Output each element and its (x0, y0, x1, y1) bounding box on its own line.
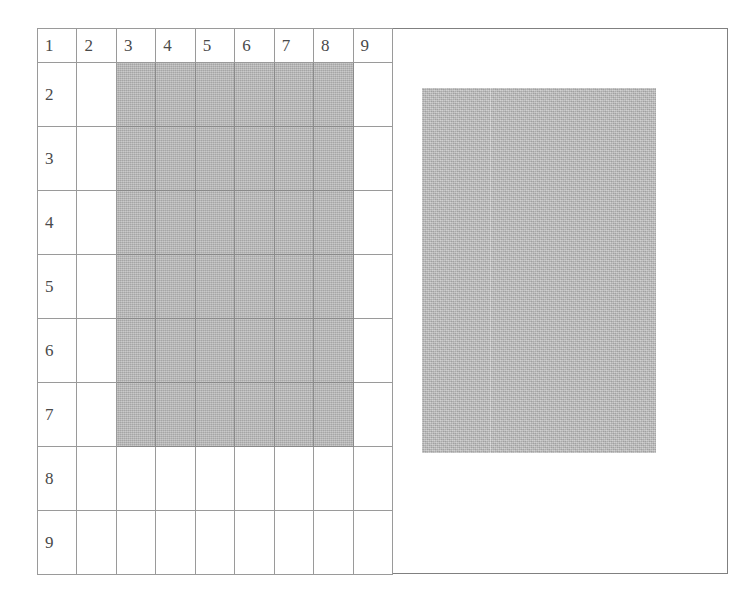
grid-cell (77, 511, 116, 575)
grid-cell-shaded (156, 255, 195, 319)
grid-cell-shaded (314, 127, 353, 191)
row-header-label: 3 (38, 150, 76, 167)
grid-cell (77, 127, 116, 191)
grid-cell (116, 511, 155, 575)
grid-cell-shaded (156, 63, 195, 127)
column-header-label: 2 (77, 37, 115, 54)
grid-cell (274, 511, 313, 575)
grid-cell (116, 447, 155, 511)
grid-row: 8 (38, 447, 393, 511)
grid-cell: 5 (38, 255, 77, 319)
grid-cell-shaded (274, 127, 313, 191)
row-header-label: 7 (38, 406, 76, 423)
grid-cell: 5 (195, 29, 234, 63)
grid-cell-shaded (314, 383, 353, 447)
grid-cell-shaded (314, 191, 353, 255)
grid-cell-shaded (195, 127, 234, 191)
column-header-label: 6 (235, 37, 273, 54)
grid-cell (353, 511, 393, 575)
grid-cell (156, 447, 195, 511)
grid-cell-shaded (274, 383, 313, 447)
grid-row: 7 (38, 383, 393, 447)
grid-cell: 3 (116, 29, 155, 63)
grid-cell (353, 383, 393, 447)
grid-cell (195, 511, 234, 575)
grid-cell-shaded (195, 191, 234, 255)
grid-cell (353, 127, 393, 191)
column-header-label: 1 (38, 37, 76, 54)
column-header-label: 8 (314, 37, 352, 54)
gray-block-seam-line (490, 88, 491, 453)
grid-cell-shaded (314, 319, 353, 383)
grid-body: 12345678923456789 (38, 29, 393, 575)
column-header-label: 7 (275, 37, 313, 54)
grid-cell-shaded (274, 191, 313, 255)
row-header-label: 9 (38, 534, 76, 551)
grid-cell-shaded (116, 127, 155, 191)
grid-cell-shaded (314, 255, 353, 319)
grid-cell-shaded (235, 191, 274, 255)
grid-cell-shaded (156, 127, 195, 191)
grid-cell (235, 511, 274, 575)
grid-row: 4 (38, 191, 393, 255)
grid-cell-shaded (156, 383, 195, 447)
grid-cell-shaded (195, 319, 234, 383)
grid-cell: 1 (38, 29, 77, 63)
grid-cell-shaded (195, 383, 234, 447)
row-header-label: 2 (38, 86, 76, 103)
grid-cell-shaded (235, 383, 274, 447)
grid-cell-shaded (235, 255, 274, 319)
column-header-label: 9 (354, 37, 393, 54)
numbered-grid: 12345678923456789 (37, 28, 393, 575)
grid-cell: 6 (38, 319, 77, 383)
grid-row: 9 (38, 511, 393, 575)
grid-cell (314, 511, 353, 575)
grid-row: 2 (38, 63, 393, 127)
grid-cell: 7 (274, 29, 313, 63)
grid-cell-shaded (116, 255, 155, 319)
grid-cell-shaded (156, 319, 195, 383)
grid-cell: 8 (38, 447, 77, 511)
grid-cell-shaded (116, 191, 155, 255)
grid-cell (195, 447, 234, 511)
grid-cell (77, 191, 116, 255)
grid-cell (353, 319, 393, 383)
grid-cell-shaded (274, 63, 313, 127)
grid-cell: 4 (156, 29, 195, 63)
grid-cell (77, 319, 116, 383)
row-header-label: 8 (38, 470, 76, 487)
grid-cell (156, 511, 195, 575)
grid-cell-shaded (116, 63, 155, 127)
grid-cell (314, 447, 353, 511)
grid-row: 123456789 (38, 29, 393, 63)
grid-cell: 2 (77, 29, 116, 63)
grid-cell (353, 63, 393, 127)
grid-cell (353, 255, 393, 319)
gray-block-texture (422, 88, 656, 453)
grid-cell (77, 63, 116, 127)
grid-cell-shaded (314, 63, 353, 127)
grid-cell-shaded (274, 319, 313, 383)
grid-cell (77, 383, 116, 447)
grid-cell: 6 (235, 29, 274, 63)
grid-cell: 9 (353, 29, 393, 63)
gray-image-block (422, 88, 656, 453)
grid-cell: 3 (38, 127, 77, 191)
grid-cell (274, 447, 313, 511)
grid-cell-shaded (116, 319, 155, 383)
grid-cell: 9 (38, 511, 77, 575)
grid-cell (77, 447, 116, 511)
grid-cell-shaded (195, 255, 234, 319)
row-header-label: 6 (38, 342, 76, 359)
grid-row: 3 (38, 127, 393, 191)
row-header-label: 5 (38, 278, 76, 295)
column-header-label: 3 (117, 37, 155, 54)
grid-cell-shaded (116, 383, 155, 447)
grid-cell-shaded (235, 319, 274, 383)
grid-cell: 7 (38, 383, 77, 447)
grid-cell-shaded (235, 63, 274, 127)
column-header-label: 5 (196, 37, 234, 54)
grid-cell-shaded (195, 63, 234, 127)
grid-cell-shaded (235, 127, 274, 191)
grid-cell (353, 447, 393, 511)
